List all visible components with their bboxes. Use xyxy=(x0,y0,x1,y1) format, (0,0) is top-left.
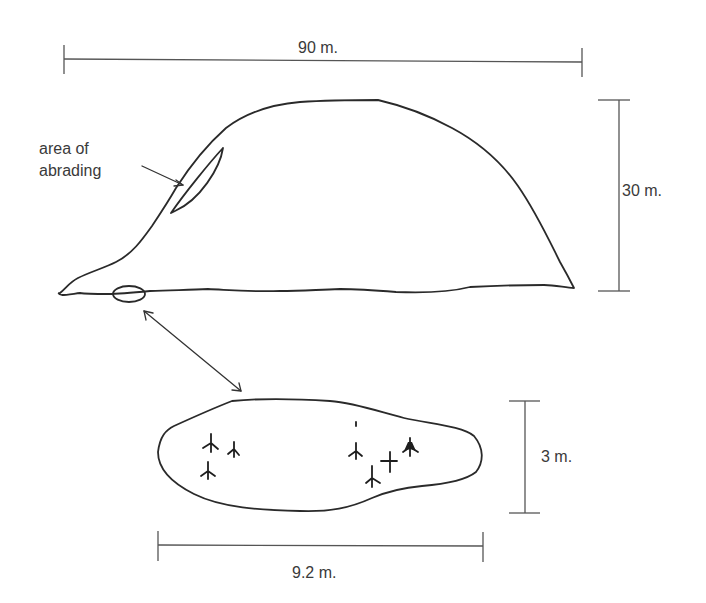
bird-track-glyph xyxy=(228,442,239,457)
bird-track-glyph xyxy=(203,434,218,452)
cross-glyph xyxy=(381,452,397,472)
outcrop-width-label: 90 m. xyxy=(298,39,338,57)
bird-track-glyph xyxy=(201,462,215,479)
abrading-annotation: area of abrading xyxy=(39,140,101,181)
abrading-annotation-line1: area of xyxy=(39,140,101,158)
boulder-width-scale-bar xyxy=(158,531,483,562)
boulder-height-label: 3 m. xyxy=(541,448,572,466)
boulder-connector-arrow xyxy=(144,311,241,391)
bird-track-glyph xyxy=(349,443,362,459)
outcrop-height-label: 30 m. xyxy=(622,182,662,200)
filled-bird-track-glyph xyxy=(403,438,418,456)
boulder-width-label: 9.2 m. xyxy=(292,564,336,582)
bird-track-glyph xyxy=(366,466,380,487)
diagram-canvas xyxy=(0,0,706,603)
petroglyph-group-right xyxy=(349,422,418,487)
petroglyph-group-left xyxy=(201,434,239,479)
boulder-height-scale-bar xyxy=(509,401,540,513)
abrading-annotation-line2: abrading xyxy=(39,162,101,180)
abrading-pointer-arrow xyxy=(142,166,183,186)
boulder-plan-outline xyxy=(158,399,482,511)
outcrop-outline xyxy=(59,100,574,295)
